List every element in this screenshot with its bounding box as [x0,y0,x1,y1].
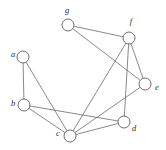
graph-node-label-e: e [155,82,159,92]
graph-node-label-g: g [65,5,69,15]
graph-figure: abcdefg [0,0,166,150]
graph-edge-d-f [124,44,128,116]
graph-node-d[interactable] [118,116,130,128]
graph-edge-c-e [75,87,140,132]
graph-node-label-a: a [11,49,15,59]
graph-node-label-d: d [132,123,137,133]
graph-edge-c-d [76,124,118,135]
graph-edge-b-d [30,106,118,121]
graph-node-label-c: c [56,128,60,138]
graph-node-f[interactable] [123,32,135,44]
graph-node-g[interactable] [62,19,74,31]
graph-node-e[interactable] [139,78,151,90]
label-layer: abcdefg [11,5,159,138]
graph-canvas: abcdefg [0,0,166,150]
graph-node-b[interactable] [18,99,30,111]
graph-edge-e-f [131,44,143,79]
graph-node-c[interactable] [64,130,76,142]
graph-node-label-b: b [11,98,15,108]
graph-node-label-f: f [130,16,134,26]
graph-edge-a-b [23,63,24,99]
graph-node-a[interactable] [17,51,29,63]
